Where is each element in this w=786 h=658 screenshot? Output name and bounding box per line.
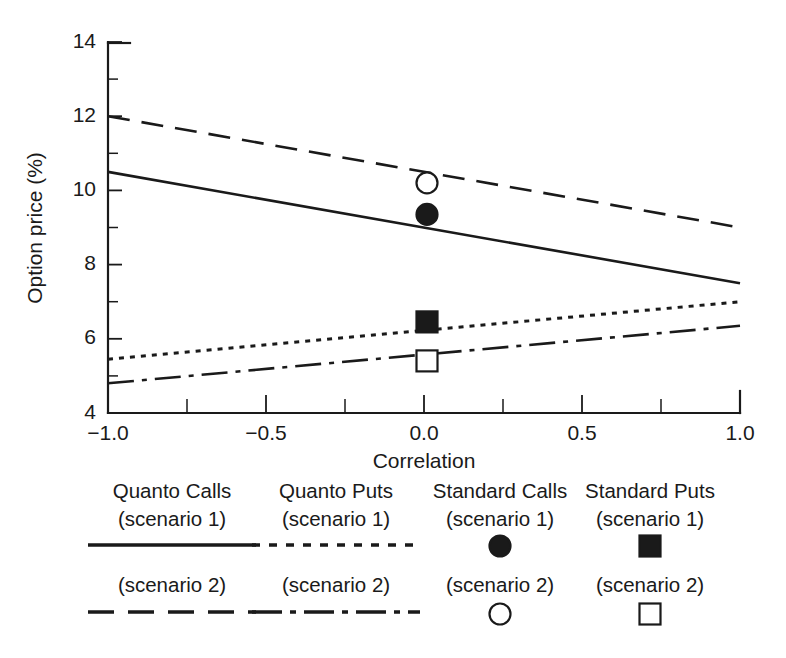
y-axis-title: Option price (%) — [23, 152, 46, 304]
legend-label-standard-puts-scenario2: (scenario 2) — [596, 573, 704, 596]
legend-label-standard-puts-scenario1: (scenario 1) — [596, 507, 704, 530]
marker-open-square-standard-puts-scenario2 — [417, 350, 438, 371]
x-ticks — [187, 395, 661, 413]
legend-sample-open-circle — [490, 604, 511, 625]
y-tick-labels: 14 12 10 8 6 4 — [73, 29, 97, 423]
legend-label-standard-calls-scenario1: (scenario 1) — [446, 507, 554, 530]
series-lines — [108, 116, 740, 383]
legend-sample-filled-square — [640, 536, 661, 557]
y-tick-label-8: 8 — [84, 251, 96, 274]
y-tick-label-10: 10 — [73, 177, 96, 200]
x-tick-label-minus05: −0.5 — [245, 421, 286, 444]
legend-heading-standard-calls: Standard Calls — [433, 479, 567, 502]
x-tick-label-minus1: −1.0 — [87, 421, 128, 444]
data-markers — [417, 172, 438, 371]
legend-heading-standard-puts: Standard Puts — [585, 479, 715, 502]
legend-label-standard-calls-scenario2: (scenario 2) — [446, 573, 554, 596]
marker-filled-circle-standard-calls-scenario1 — [417, 204, 438, 225]
legend-label-quanto-calls-scenario1: (scenario 1) — [118, 507, 226, 530]
chart-svg: 14 12 10 8 6 4 −1.0 −0.5 0.0 0.5 1.0 Cor… — [0, 0, 786, 658]
y-ticks — [108, 42, 122, 376]
y-tick-label-14: 14 — [73, 29, 97, 52]
legend-label-quanto-calls-scenario2: (scenario 2) — [118, 573, 226, 596]
x-tick-label-05: 0.5 — [567, 421, 596, 444]
legend: Quanto Calls (scenario 1) (scenario 2) Q… — [88, 479, 715, 625]
legend-column-quanto-puts: Quanto Puts (scenario 1) (scenario 2) — [252, 479, 420, 612]
y-tick-label-4: 4 — [84, 400, 96, 423]
figure-container: 14 12 10 8 6 4 −1.0 −0.5 0.0 0.5 1.0 Cor… — [0, 0, 786, 658]
x-tick-label-zero: 0.0 — [409, 421, 438, 444]
legend-column-quanto-calls: Quanto Calls (scenario 1) (scenario 2) — [88, 479, 256, 612]
legend-sample-open-square — [640, 604, 661, 625]
marker-filled-square-standard-puts-scenario1 — [417, 311, 438, 332]
marker-open-circle-standard-calls-scenario2 — [417, 172, 438, 193]
legend-heading-quanto-puts: Quanto Puts — [279, 479, 393, 502]
y-tick-label-6: 6 — [84, 325, 96, 348]
legend-heading-quanto-calls: Quanto Calls — [113, 479, 232, 502]
legend-column-standard-calls: Standard Calls (scenario 1) (scenario 2) — [433, 479, 567, 625]
x-tick-labels: −1.0 −0.5 0.0 0.5 1.0 — [87, 421, 754, 444]
legend-label-quanto-puts-scenario2: (scenario 2) — [282, 573, 390, 596]
x-axis-title: Correlation — [373, 449, 476, 472]
y-tick-label-12: 12 — [73, 103, 96, 126]
legend-column-standard-puts: Standard Puts (scenario 1) (scenario 2) — [585, 479, 715, 625]
legend-label-quanto-puts-scenario1: (scenario 1) — [282, 507, 390, 530]
legend-sample-filled-circle — [490, 536, 511, 557]
x-tick-label-1: 1.0 — [725, 421, 754, 444]
